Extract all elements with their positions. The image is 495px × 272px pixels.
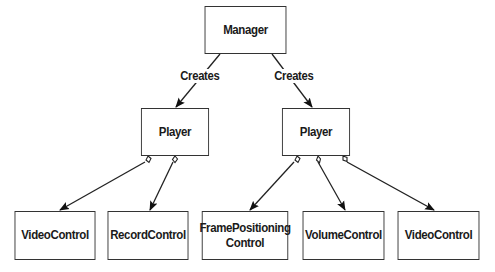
frame-positioning-control-node[interactable]: FramePositioning Control — [202, 211, 288, 260]
node-label: Manager — [223, 23, 268, 38]
volume-control-node[interactable]: VolumeControl — [303, 211, 385, 260]
diamond-icon — [173, 156, 178, 163]
diamond-icon — [317, 156, 321, 163]
aggregation-line — [60, 162, 145, 210]
creates-label-right: Creates — [273, 69, 314, 83]
diamond-icon — [295, 156, 300, 163]
creates-label-left: Creates — [179, 69, 220, 83]
video-control-node-right[interactable]: VideoControl — [398, 211, 480, 260]
aggregation-line — [250, 162, 294, 210]
player-node-left[interactable]: Player — [141, 108, 209, 156]
node-label: RecordControl — [110, 228, 186, 243]
node-label: VideoControl — [21, 228, 89, 243]
node-label: FramePositioning Control — [199, 221, 290, 251]
node-label: VideoControl — [405, 228, 473, 243]
node-label: Player — [300, 125, 332, 140]
record-control-node[interactable]: RecordControl — [108, 211, 189, 260]
aggregation-line — [318, 162, 345, 210]
manager-node[interactable]: Manager — [205, 6, 287, 54]
aggregation-line — [347, 162, 434, 210]
node-label: VolumeControl — [305, 228, 382, 243]
diamond-icon — [146, 156, 151, 163]
player-node-right[interactable]: Player — [282, 108, 350, 156]
diamond-icon — [343, 156, 347, 162]
video-control-node-left[interactable]: VideoControl — [15, 211, 96, 260]
node-label: Player — [159, 125, 191, 140]
aggregation-line — [150, 162, 173, 210]
